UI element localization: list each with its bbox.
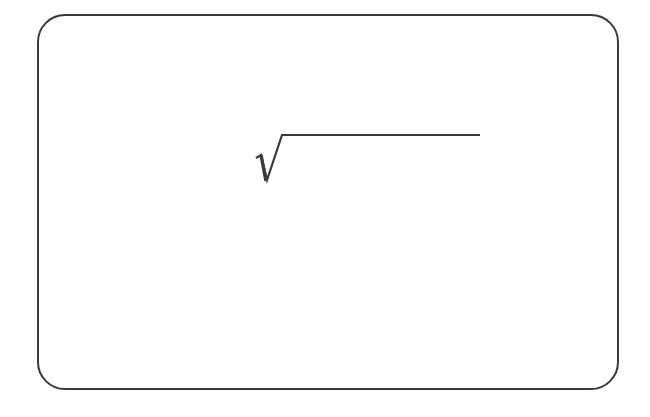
square-root-icon xyxy=(0,0,650,417)
